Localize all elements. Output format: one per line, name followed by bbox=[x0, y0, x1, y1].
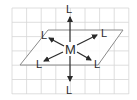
octahedral-complex-diagram: M L L L L L L bbox=[0, 0, 137, 100]
ligand-label-upper-right: L bbox=[101, 27, 107, 39]
metal-center-label: M bbox=[65, 42, 76, 57]
ligand-label-lower-right: L bbox=[94, 58, 100, 70]
ligand-label-bottom: L bbox=[66, 84, 72, 96]
ligand-label-lower-left: L bbox=[36, 58, 42, 70]
ligand-label-upper-left: L bbox=[41, 29, 47, 41]
ligand-label-top: L bbox=[66, 3, 72, 15]
